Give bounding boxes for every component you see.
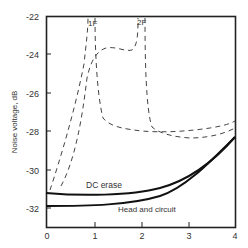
x-axis: [95, 222, 189, 227]
y-axis-label: Noise voltage, dB: [10, 91, 19, 154]
plot-frame: [47, 17, 236, 228]
annotation-dc-erase: DC erase: [86, 180, 122, 190]
y-tick-label: -28: [26, 127, 39, 137]
series-2f-curve: [61, 18, 235, 186]
annotation-1f: 1F: [88, 19, 97, 28]
x-tick-label: 2: [139, 231, 144, 241]
x-tick-label: 4: [232, 231, 237, 241]
noise-voltage-chart: -22 -24 -26 -28 -30 -32 0 1 2 3 4 Noise …: [0, 0, 248, 248]
y-tick-label: -22: [26, 12, 39, 22]
x-tick-label: 3: [186, 231, 191, 241]
annotation-2f: 2F: [137, 18, 146, 27]
x-tick-label: 0: [44, 231, 49, 241]
y-tick-label: -26: [26, 89, 39, 99]
annotation-head-circuit: Head and circuit: [118, 205, 177, 214]
y-tick-label: -24: [26, 50, 39, 60]
y-tick-label: -32: [26, 204, 39, 214]
y-tick-label: -30: [26, 166, 39, 176]
x-tick-label: 1: [92, 231, 97, 241]
